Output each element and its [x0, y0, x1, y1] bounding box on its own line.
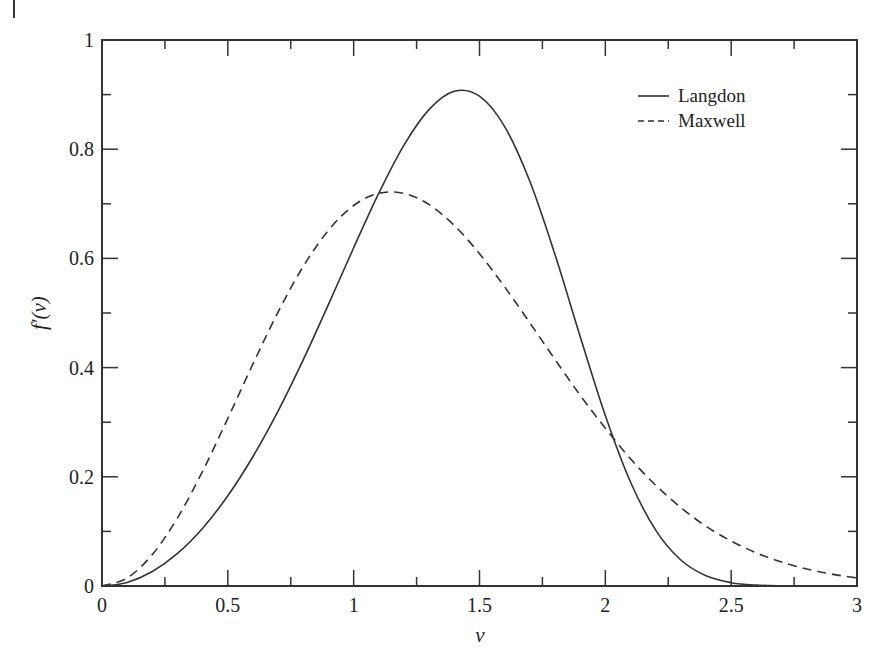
legend-label-langdon: Langdon	[678, 85, 746, 106]
plot-curves	[102, 90, 857, 586]
x-tick-label: 0	[97, 594, 107, 616]
legend: Langdon Maxwell	[638, 85, 746, 131]
x-axis-label: v	[475, 623, 485, 647]
y-tick-label: 0.2	[69, 466, 94, 488]
y-tick-label: 1	[84, 29, 94, 51]
x-tick-label: 0.5	[215, 594, 240, 616]
y-tick-label: 0	[84, 575, 94, 597]
x-tick-label: 3	[852, 594, 862, 616]
line-chart: 00.511.522.53 00.20.40.60.81 v f′(v) Lan…	[0, 0, 891, 669]
x-tick-label: 2.5	[719, 594, 744, 616]
legend-label-maxwell: Maxwell	[678, 110, 746, 131]
x-axis-ticks: 00.511.522.53	[97, 40, 862, 616]
x-tick-label: 2	[600, 594, 610, 616]
y-tick-label: 0.8	[69, 138, 94, 160]
y-tick-label: 0.4	[69, 357, 94, 379]
y-tick-label: 0.6	[69, 247, 94, 269]
x-tick-label: 1.5	[467, 594, 492, 616]
series-langdon-line	[102, 90, 857, 586]
series-maxwell-line	[102, 192, 857, 586]
y-axis-label: f′(v)	[27, 296, 51, 330]
x-tick-label: 1	[349, 594, 359, 616]
